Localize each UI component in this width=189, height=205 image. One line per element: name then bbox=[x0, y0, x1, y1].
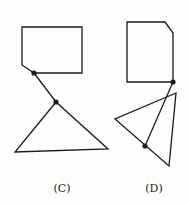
figure-d-triangle bbox=[115, 93, 176, 166]
joint-dot bbox=[170, 79, 175, 84]
diagram-canvas: (C) (D) bbox=[0, 0, 189, 205]
figure-d-label: (D) bbox=[145, 182, 162, 195]
figure-c-connector bbox=[34, 73, 56, 102]
figure-c-label: (C) bbox=[54, 182, 71, 195]
figure-d bbox=[115, 22, 176, 166]
figure-c-rectangle bbox=[22, 27, 82, 73]
figure-c-triangle bbox=[15, 102, 108, 152]
figure-d-rectangle bbox=[127, 22, 173, 82]
figure-d-connector bbox=[145, 82, 173, 146]
diagram-svg bbox=[0, 0, 189, 205]
joint-dot bbox=[31, 70, 36, 75]
figure-c bbox=[15, 27, 108, 152]
joint-dot bbox=[53, 99, 58, 104]
joint-dot bbox=[142, 143, 147, 148]
